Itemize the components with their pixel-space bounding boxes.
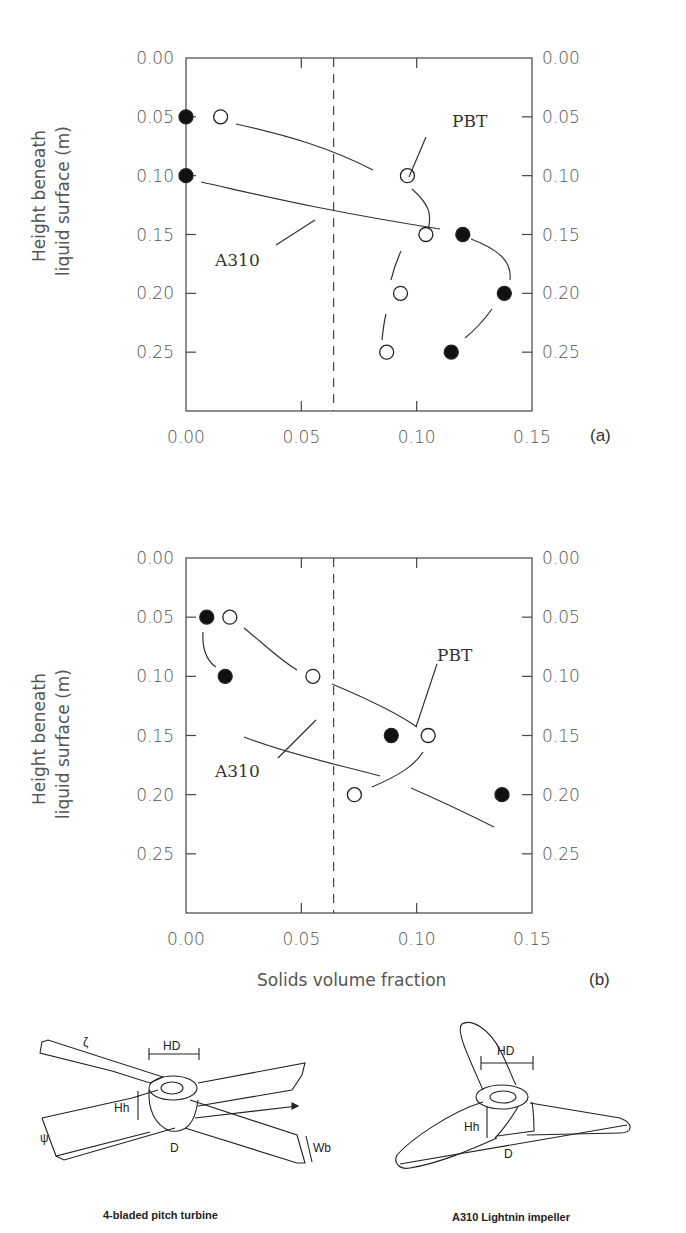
y-tick-label: 0.15 — [542, 726, 580, 746]
x-axis-title: Solids volume fraction — [257, 970, 446, 990]
psi-label: ψ — [40, 1131, 49, 1145]
pbt-data-point — [421, 729, 435, 743]
x-tick-label: 0.10 — [398, 427, 436, 447]
a310-impeller-diagram: HD Hh D — [396, 1022, 630, 1168]
a310-data-point — [218, 669, 232, 683]
y-tick-label: 0.00 — [136, 48, 174, 68]
plot-frame — [186, 558, 532, 913]
y-axis-title-line1: Height beneath — [29, 673, 49, 805]
y-axis-right: 0.000.050.100.150.200.25 — [522, 548, 580, 864]
y-tick-label: 0.10 — [136, 666, 174, 686]
a310-leader-line — [278, 720, 316, 758]
y-axis-title: Height beneath liquid surface (m) — [29, 669, 73, 819]
x-tick-label: 0.00 — [167, 929, 205, 949]
d-label: D — [170, 1141, 179, 1155]
x-tick-label: 0.00 — [167, 427, 205, 447]
y-tick-label: 0.25 — [136, 844, 174, 864]
y-tick-label: 0.15 — [136, 225, 174, 245]
y-tick-label: 0.25 — [542, 844, 580, 864]
y-axis-left: 0.000.050.100.150.200.25 — [136, 548, 196, 864]
a310-data-point — [497, 286, 511, 300]
panel-label-b: (b) — [589, 970, 610, 989]
d-label: D — [504, 1147, 513, 1161]
pbt-data-point — [419, 228, 433, 242]
a310-annotation: A310 — [214, 250, 260, 270]
y-tick-label: 0.25 — [136, 342, 174, 362]
pitch-turbine-diagram: HD Hh D Wb ζ ψ — [40, 1035, 331, 1163]
x-tick-label: 0.10 — [398, 929, 436, 949]
y-tick-label: 0.20 — [136, 283, 174, 303]
pbt-annotation: PBT — [452, 111, 488, 131]
y-tick-label: 0.05 — [136, 107, 174, 127]
x-tick-label: 0.15 — [513, 929, 551, 949]
a310-annotation: A310 — [214, 761, 260, 781]
a310-data-point — [384, 729, 398, 743]
y-axis-left: 0.000.050.100.150.200.25 — [136, 48, 196, 362]
a310-data-point — [456, 228, 470, 242]
a310-data-point — [444, 345, 458, 359]
y-axis-title-line2: liquid surface (m) — [53, 669, 73, 819]
pbt-data-point — [380, 345, 394, 359]
y-axis-right: 0.000.050.100.150.200.25 — [522, 48, 580, 362]
pitch-turbine-caption: 4-bladed pitch turbine — [103, 1209, 218, 1221]
y-tick-label: 0.10 — [542, 666, 580, 686]
y-tick-label: 0.25 — [542, 342, 580, 362]
y-axis-title-line1: Height beneath — [29, 130, 49, 262]
wb-label: Wb — [313, 1141, 331, 1155]
pbt-data-point — [223, 610, 237, 624]
pbt-data-point — [400, 169, 414, 183]
chart-panel-b: 0.000.050.100.150.200.25 0.000.050.100.1… — [29, 548, 610, 990]
x-tick-label: 0.05 — [282, 427, 320, 447]
y-tick-label: 0.00 — [136, 548, 174, 568]
hd-label: HD — [163, 1039, 181, 1053]
y-tick-label: 0.20 — [542, 785, 580, 805]
pbt-annotation: PBT — [437, 645, 473, 665]
pbt-leader-line — [416, 664, 437, 727]
a310-data-point — [179, 169, 193, 183]
panel-label-a: (a) — [590, 426, 611, 445]
a310-data-point — [200, 610, 214, 624]
zeta-label: ζ — [83, 1035, 89, 1049]
data-points — [179, 110, 511, 359]
y-tick-label: 0.00 — [542, 548, 580, 568]
chart-panel-a: 0.000.050.100.150.200.25 0.000.050.100.1… — [29, 48, 611, 447]
hh-label: Hh — [114, 1101, 129, 1115]
y-tick-label: 0.05 — [136, 607, 174, 627]
figure: 0.000.050.100.150.200.25 0.000.050.100.1… — [0, 0, 686, 1233]
y-tick-label: 0.05 — [542, 107, 580, 127]
pbt-data-point — [214, 110, 228, 124]
y-tick-label: 0.15 — [542, 225, 580, 245]
a310-data-point — [179, 110, 193, 124]
y-tick-label: 0.10 — [136, 166, 174, 186]
pbt-data-point — [347, 788, 361, 802]
y-tick-label: 0.10 — [542, 166, 580, 186]
y-axis-title-line2: liquid surface (m) — [53, 126, 73, 276]
x-tick-label: 0.05 — [282, 929, 320, 949]
pbt-leader-line — [409, 137, 426, 177]
pbt-data-point — [306, 669, 320, 683]
y-axis-title: Height beneath liquid surface (m) — [29, 126, 73, 276]
hd-label: HD — [497, 1044, 515, 1058]
y-tick-label: 0.20 — [542, 283, 580, 303]
y-tick-label: 0.05 — [542, 607, 580, 627]
x-tick-label: 0.15 — [513, 427, 551, 447]
pbt-data-point — [394, 286, 408, 300]
hh-label: Hh — [464, 1120, 479, 1134]
a310-leader-line — [276, 220, 315, 245]
a310-data-point — [495, 788, 509, 802]
y-tick-label: 0.15 — [136, 726, 174, 746]
y-tick-label: 0.20 — [136, 785, 174, 805]
a310-impeller-caption: A310 Lightnin impeller — [452, 1211, 571, 1223]
y-tick-label: 0.00 — [542, 48, 580, 68]
